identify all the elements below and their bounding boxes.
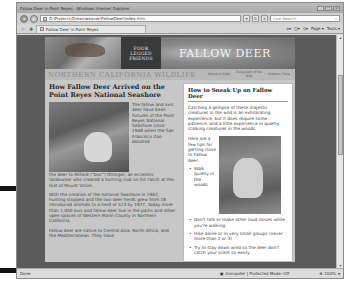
sidebar-heading: How to Sneak Up on Fallow Deer — [188, 87, 288, 102]
status-text: Done — [20, 271, 220, 276]
search-placeholder: Live Search — [273, 16, 296, 21]
page-icon — [43, 17, 47, 21]
computer-icon: ▣ — [220, 271, 224, 276]
zoom-level: 100% — [325, 271, 336, 276]
deer-image — [65, 43, 105, 57]
nav-link[interactable]: Ecosystem of the Wild — [236, 71, 262, 78]
banner-photo — [45, 37, 121, 69]
chevron-down-icon[interactable]: ▾ — [338, 271, 340, 276]
site-banner: FOUR LEGGED FRIENDS FALLOW DEER — [45, 37, 295, 69]
tip-item: Don't talk or make other loud noises whi… — [188, 217, 288, 228]
zoom-icon: ⊕ — [319, 271, 322, 276]
forward-button[interactable]: ▸ — [30, 15, 38, 23]
article-paragraph: With the creation of the national Seasho… — [49, 192, 176, 224]
deer-photo — [49, 102, 129, 172]
add-favorites-icon[interactable]: ✚ — [28, 26, 34, 32]
sidebar-box: How to Sneak Up on Fallow Deer Catching … — [183, 83, 293, 262]
site-logo[interactable]: FOUR LEGGED FRIENDS — [121, 37, 161, 69]
security-zone: ▣ Computer | Protected Mode: Off — [220, 271, 289, 276]
tips-deer-photo — [219, 136, 281, 214]
tips-list: Don't talk or make other loud noises whi… — [188, 217, 288, 255]
tips-intro: Here are a few tips for getting close to… — [188, 136, 216, 162]
window-controls: – □ × — [317, 6, 340, 11]
vertical-scrollbar[interactable]: ▴ ▾ — [336, 35, 343, 269]
zone-text: Computer | Protected Mode: Off — [226, 271, 290, 276]
web-page: FOUR LEGGED FRIENDS FALLOW DEER NORTHERN… — [45, 37, 295, 262]
address-row: ◂ ▸ D:\Projects\Dreamweaver\FallowDeer\i… — [17, 13, 343, 24]
tab-row: ☆ ✚ Fallow Deer in Point Reyes ⌂▾ ◫▾ ⎙▾ … — [17, 24, 343, 34]
search-icon[interactable]: ⌕ — [335, 16, 337, 21]
home-icon[interactable]: ⌂▾ — [287, 26, 292, 31]
content-area: How Fallow Deer Arrived on the Point Rey… — [45, 80, 295, 262]
article-paragraph: Fallow deer are native to Central Asia, … — [49, 228, 176, 239]
address-text: D:\Projects\Dreamweaver\FallowDeer\index… — [49, 16, 145, 21]
deer-image — [84, 132, 112, 162]
article-paragraph: the deer to Millard ("Doc") Ottinger, an… — [49, 172, 176, 188]
status-bar: Done ▣ Computer | Protected Mode: Off ⊕ … — [17, 268, 343, 278]
maximize-button[interactable]: □ — [325, 6, 332, 11]
logo-line: FRIENDS — [121, 56, 161, 61]
browser-window: Fallow Deer in Point Reyes - Windows Int… — [16, 2, 344, 279]
main-article: How Fallow Deer Arrived on the Point Rey… — [45, 80, 180, 262]
page-viewport: FOUR LEGGED FRIENDS FALLOW DEER NORTHERN… — [17, 35, 337, 269]
tips-list: Walk quietly in the woods — [188, 166, 216, 187]
address-bar[interactable]: D:\Projects\Dreamweaver\FallowDeer\index… — [40, 15, 241, 22]
refresh-icon[interactable]: ↻ — [252, 15, 259, 22]
page-icon — [40, 27, 44, 31]
site-name: NORTHERN CALIFORNIA WILDLIFE — [48, 71, 202, 79]
favorites-star-icon[interactable]: ☆ — [20, 26, 26, 32]
window-title: Fallow Deer in Point Reyes - Windows Int… — [20, 6, 317, 11]
tab-active[interactable]: Fallow Deer in Point Reyes — [36, 25, 146, 33]
stop-icon[interactable]: × — [261, 15, 268, 22]
page-menu[interactable]: Page ▾ — [311, 26, 324, 31]
title-bar: Fallow Deer in Point Reyes - Windows Int… — [17, 3, 343, 13]
scrollbar-thumb[interactable] — [338, 75, 343, 155]
tips-wrap: Here are a few tips for getting close to… — [188, 136, 288, 214]
hero-title: FALLOW DEER — [161, 37, 295, 69]
scroll-up-arrow-icon[interactable]: ▴ — [337, 35, 344, 41]
zoom-control[interactable]: ⊕ 100% ▾ — [319, 271, 340, 276]
tab-label: Fallow Deer in Point Reyes — [46, 26, 99, 33]
tips-left-column: Here are a few tips for getting close to… — [188, 136, 216, 214]
article-figure-wrap: The fallow and axis deer have been fixtu… — [49, 102, 176, 172]
nav-link[interactable]: Where to Sight — [206, 73, 232, 77]
sidebar-intro: Catching a glimpse of these majestic cre… — [188, 105, 288, 131]
figure-side-text: The fallow and axis deer have been fixtu… — [132, 102, 176, 172]
search-input[interactable]: Live Search ⌕ — [270, 15, 340, 22]
tip-item: Hike alone or in very small groups (neve… — [188, 231, 288, 242]
site-nav: NORTHERN CALIFORNIA WILDLIFE Where to Si… — [45, 69, 295, 80]
minimize-button[interactable]: – — [317, 6, 324, 11]
nav-link[interactable]: Endemic Flora — [266, 73, 292, 77]
feeds-icon[interactable]: ◫▾ — [294, 26, 300, 31]
tools-menu[interactable]: Tools ▾ — [327, 26, 340, 31]
close-button[interactable]: × — [333, 6, 340, 11]
dropdown-arrow-icon[interactable]: ▾ — [243, 15, 250, 22]
deer-image — [233, 158, 263, 198]
command-bar: ⌂▾ ◫▾ ⎙▾ Page ▾ Tools ▾ — [287, 26, 340, 31]
back-button[interactable]: ◂ — [20, 15, 28, 23]
tip-item: Try to stay down wind so the deer don't … — [188, 245, 288, 256]
print-icon[interactable]: ⎙▾ — [303, 26, 308, 31]
tip-item: Walk quietly in the woods — [188, 166, 216, 187]
article-heading: How Fallow Deer Arrived on the Point Rey… — [49, 83, 176, 99]
